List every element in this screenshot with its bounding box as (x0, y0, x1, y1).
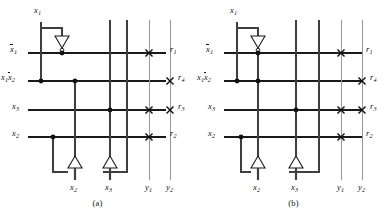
junction-dot (294, 108, 299, 113)
panel-b-caption: (b) (196, 198, 391, 208)
crosspoints-group (338, 50, 366, 141)
inverter-x2 (68, 156, 82, 180)
wire-x2-feedback (53, 137, 68, 172)
label-bottom-y2: y2 (358, 183, 365, 192)
junction-dot (235, 79, 240, 84)
junction-dot (256, 79, 261, 84)
label-bottom-y1: y1 (337, 183, 344, 192)
label-bottom-y1: y1 (145, 183, 152, 192)
label-output-r4: r4 (178, 73, 184, 82)
label-bottom-x2: x2 (253, 183, 260, 192)
label-output-r3: r3 (370, 102, 376, 111)
junction-dot (239, 135, 244, 140)
junction-dot (256, 51, 261, 56)
label-row-r3: x3 (208, 102, 215, 111)
label-row-r2: x2 (208, 129, 215, 138)
label-bottom-x3: x3 (291, 183, 298, 192)
crosspoints-group (146, 50, 174, 141)
inverter-x3 (289, 156, 303, 180)
junction-dot (60, 51, 65, 56)
label-top-x1: x1 (34, 6, 41, 15)
label-bottom-x2: x2 (70, 183, 77, 192)
panel-b: x1 x1 x1x2 x3 x2 r1 r4 r3 r2 x2 x3 (196, 0, 391, 214)
inverter-x1 (251, 36, 265, 53)
circuit-figure: x1 x1 x1x2 x3 x2 r1 r4 r3 r2 x2 x3 (0, 0, 391, 214)
label-output-r3: r3 (178, 102, 184, 111)
label-bottom-y2: y2 (166, 183, 173, 192)
label-row-r1: x1 (10, 45, 17, 54)
inverter-x1 (55, 36, 69, 53)
label-output-r1: r1 (170, 45, 176, 54)
label-output-r4: r4 (370, 73, 376, 82)
inverter-x2 (251, 156, 265, 180)
label-row-r4: x1x2 (1, 73, 15, 82)
label-output-r2: r2 (170, 129, 176, 138)
label-row-r3: x3 (12, 102, 19, 111)
label-row-r4: x1x2 (197, 73, 211, 82)
junction-dot (73, 79, 78, 84)
label-top-x1: x1 (230, 6, 237, 15)
label-row-r2: x2 (12, 129, 19, 138)
label-output-r1: r1 (366, 45, 372, 54)
label-output-r2: r2 (366, 129, 372, 138)
wire-x2-feedback (241, 137, 251, 172)
panel-a: x1 x1 x1x2 x3 x2 r1 r4 r3 r2 x2 x3 (0, 0, 195, 214)
wire-x1-to-inverter (41, 22, 62, 36)
junction-dot (108, 108, 113, 113)
inverter-x3 (103, 156, 117, 180)
wire-x1-to-inverter (237, 22, 258, 36)
junction-dots-group (235, 51, 299, 140)
junction-dot (39, 79, 44, 84)
label-row-r1: x1 (206, 45, 213, 54)
panel-a-caption: (a) (0, 198, 195, 208)
junction-dot (51, 135, 56, 140)
label-bottom-x3: x3 (105, 183, 112, 192)
